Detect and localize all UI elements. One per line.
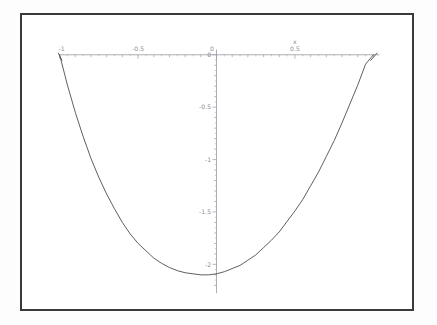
x-axis-tick-label: 0.5 [290, 45, 300, 52]
chart-svg: -1-0.500.50-0.5-1-1.5-2x [22, 15, 412, 309]
y-axis-tick-label: -1.5 [199, 208, 211, 215]
y-axis-tick-label: 0 [207, 51, 211, 58]
y-axis-tick-label: -1 [205, 156, 211, 163]
x-axis-tick-label: -1 [59, 45, 65, 52]
x-axis-name-label: x [293, 38, 297, 45]
plot-window: -1-0.500.50-0.5-1-1.5-2x [0, 0, 437, 325]
plot-area: -1-0.500.50-0.5-1-1.5-2x [22, 15, 412, 309]
y-axis-tick-label: -2 [205, 261, 211, 268]
figure-frame: -1-0.500.50-0.5-1-1.5-2x [20, 13, 414, 311]
y-axis-tick-label: -0.5 [199, 103, 211, 110]
x-axis-tick-label: -0.5 [132, 45, 144, 52]
curve-endpoint-left [58, 53, 62, 61]
